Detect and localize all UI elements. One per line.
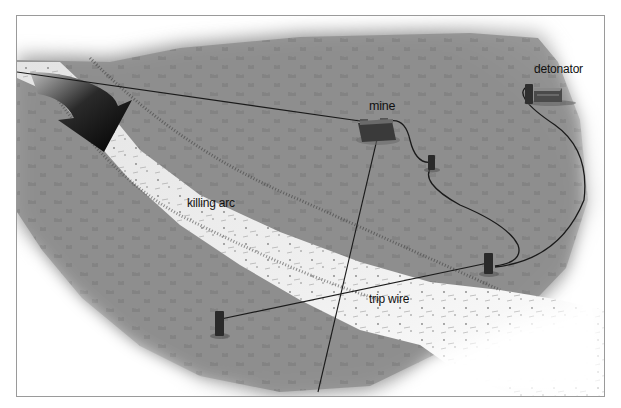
mine-label: mine [369,99,395,113]
killing-arc-label: killing arc [187,196,235,210]
trip-wire-label: trip wire [369,292,409,306]
detonator-label: detonator [534,62,583,76]
illustration [0,0,621,408]
